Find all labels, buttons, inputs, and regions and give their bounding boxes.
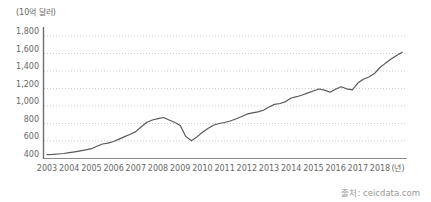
line-chart: 4006008001,0001,2001,4001,6001,800200320… (0, 0, 431, 202)
x-tick-label: 2015 (303, 164, 323, 173)
x-tick-label: 2003 (37, 164, 57, 173)
y-tick-label: 1,200 (16, 80, 39, 89)
source-credit: 출처: ceicdata.com (341, 186, 420, 198)
y-tick-label: 1,400 (16, 62, 39, 71)
x-tick-label: 2013 (259, 164, 279, 173)
y-tick-label: 1,800 (16, 27, 39, 36)
y-tick-label: 1,600 (16, 45, 39, 54)
chart-canvas: 4006008001,0001,2001,4001,6001,800200320… (0, 0, 431, 202)
x-tick-label: 2014 (281, 164, 301, 173)
x-tick-label: 2004 (59, 164, 79, 173)
x-tick-label: 2016 (325, 164, 345, 173)
y-tick-label: 800 (24, 115, 39, 124)
y-tick-label: 600 (24, 132, 39, 141)
x-tick-label: 2010 (192, 164, 212, 173)
x-tick-label: 2005 (81, 164, 101, 173)
data-series-line (47, 52, 402, 154)
y-tick-label: 400 (24, 150, 39, 159)
x-tick-label: 2011 (214, 164, 234, 173)
x-axis-unit-label: (년) (391, 163, 404, 173)
chart-page: 4006008001,0001,2001,4001,6001,800200320… (0, 0, 431, 202)
x-tick-label: 2008 (148, 164, 168, 173)
x-tick-label: 2018 (370, 164, 390, 173)
y-tick-label: 1,000 (16, 97, 39, 106)
x-tick-label: 2007 (126, 164, 146, 173)
y-axis-unit-label: (10억 달러) (16, 6, 56, 17)
x-tick-label: 2012 (237, 164, 257, 173)
x-tick-label: 2009 (170, 164, 190, 173)
x-tick-label: 2017 (348, 164, 368, 173)
x-tick-label: 2006 (103, 164, 123, 173)
